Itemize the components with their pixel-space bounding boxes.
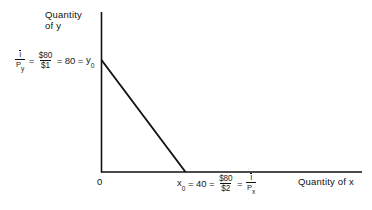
y-axis-title-line-2: of y <box>45 20 82 31</box>
y-zero-symbol: y0 <box>86 54 94 67</box>
income-price-y-ratio: I Py <box>15 51 25 71</box>
price-x-symbol: Px <box>246 182 256 194</box>
origin-label: 0 <box>97 176 102 187</box>
equals-sign-6: = <box>237 178 243 189</box>
equals-sign-3: = <box>78 55 84 66</box>
price-y-symbol: Py <box>15 59 25 71</box>
equals-sign-2: = <box>57 55 63 66</box>
income-dollars: $80 <box>38 52 53 61</box>
price-ratio-x: $80 $2 <box>218 175 233 193</box>
price-y-dollars: $1 <box>40 60 51 70</box>
income-dollars-x: $80 <box>218 175 233 184</box>
budget-constraint-line <box>102 60 186 172</box>
x-zero-symbol: x0 <box>177 177 185 190</box>
x-intercept-equation: x0 = 40 = $80 $2 = I Px <box>177 174 257 194</box>
income-price-x-ratio: I Px <box>246 174 256 194</box>
equals-sign-4: = <box>188 178 194 189</box>
y-axis-title: Quantity of y <box>45 9 82 31</box>
income-symbol: I <box>18 51 22 59</box>
x-axis-title: Quantity of x <box>298 176 354 187</box>
price-ratio-y: $80 $1 <box>38 52 53 70</box>
equals-sign-5: = <box>209 178 215 189</box>
income-symbol-x: I <box>249 174 253 182</box>
price-x-dollars: $2 <box>220 183 231 193</box>
budget-line-figure: Quantity of y Quantity of x 0 I Py = $80… <box>0 0 372 210</box>
y-intercept-equation: I Py = $80 $1 = 80 = y0 <box>14 51 94 71</box>
equals-sign-1: = <box>29 55 35 66</box>
x-intercept-value: 40 <box>196 178 207 189</box>
y-axis-title-line-1: Quantity <box>45 9 82 20</box>
y-intercept-value: 80 <box>65 55 76 66</box>
